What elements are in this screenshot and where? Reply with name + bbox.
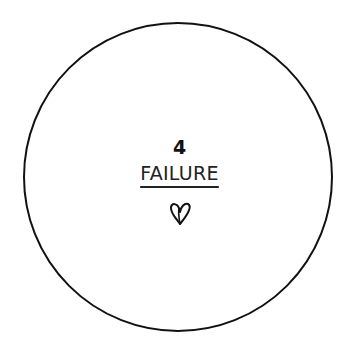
label-container: FAILURE: [0, 162, 359, 186]
heart-icon: [167, 201, 193, 227]
step-number: 4: [0, 137, 359, 157]
step-label: FAILURE: [140, 162, 219, 184]
